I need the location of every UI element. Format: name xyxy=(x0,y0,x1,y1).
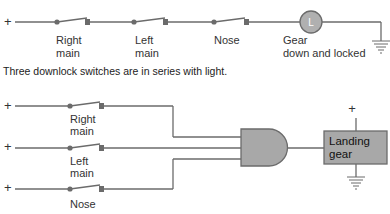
supply-plus-top: + xyxy=(4,14,12,29)
supply-plus-3: + xyxy=(4,180,12,195)
and-gate-icon xyxy=(241,129,287,166)
series-circuit: + L xyxy=(3,11,390,77)
supply-plus-box: + xyxy=(348,101,356,116)
landing-gear-label-1: Landing xyxy=(329,135,370,147)
label-nose: Nose xyxy=(214,34,240,46)
switch-right-main xyxy=(54,18,90,25)
label-right-main-b2: main xyxy=(70,125,94,137)
label-left-main-1: Left xyxy=(135,34,153,46)
and-gate-circuit: + + + Right main Left main Nose L xyxy=(4,98,387,210)
label-left-main-b1: Left xyxy=(70,155,88,167)
label-right-main-1: Right xyxy=(56,34,82,46)
label-down-and-locked: down and locked xyxy=(283,47,366,59)
switch-nose xyxy=(211,18,249,25)
ground-icon-bottom xyxy=(347,177,365,189)
label-left-main-b2: main xyxy=(70,167,94,179)
caption: Three downlock switches are in series wi… xyxy=(3,65,227,77)
ground-icon-top xyxy=(372,41,390,53)
label-right-main-2: main xyxy=(56,47,80,59)
supply-plus-1: + xyxy=(4,98,12,113)
switch-left-main xyxy=(131,18,168,25)
supply-plus-2: + xyxy=(4,139,12,154)
landing-gear-label-2: gear xyxy=(329,148,352,160)
label-left-main-2: main xyxy=(135,47,159,59)
label-gear: Gear xyxy=(283,34,308,46)
landing-gear-circuit-diagram: + L xyxy=(0,0,390,214)
label-right-main-b1: Right xyxy=(70,113,96,125)
label-nose-b: Nose xyxy=(70,198,96,210)
gear-light: L xyxy=(300,11,322,33)
light-symbol: L xyxy=(308,17,314,28)
